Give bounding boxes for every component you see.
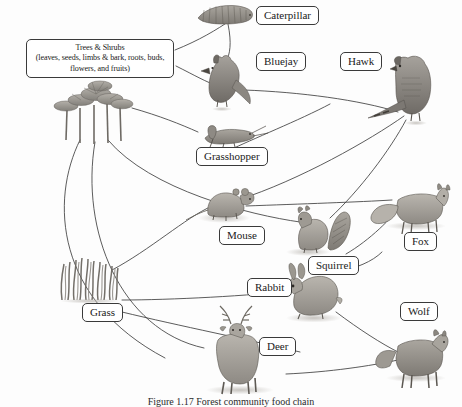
link-grasshopper-bluejay (230, 104, 330, 150)
node-label-rabbit[interactable]: Rabbit (247, 278, 292, 297)
node-label-grass[interactable]: Grass (82, 303, 123, 322)
link-grass-mouse (112, 206, 212, 270)
link-trees-rabbit2 (64, 140, 165, 358)
trees-label-sublabel: (leaves, seeds, limbs & bark, roots, bud… (31, 53, 169, 74)
link-trees-caterpillar (175, 20, 231, 50)
node-label-bluejay[interactable]: Bluejay (256, 52, 306, 71)
link-rabbit-wolf (336, 312, 398, 352)
node-label-caterpillar[interactable]: Caterpillar (256, 6, 319, 25)
link-trees-grasshopper (132, 108, 198, 132)
trees-label-title: Trees & Shrubs (31, 43, 169, 53)
node-label-fox[interactable]: Fox (404, 232, 437, 251)
node-label-deer[interactable]: Deer (259, 337, 296, 356)
link-trees-bluejay (176, 66, 218, 86)
link-mouse-fox (246, 200, 392, 206)
link-squirrel-hawk (330, 120, 406, 218)
link-squirrel-fox (346, 204, 402, 254)
node-label-hawk[interactable]: Hawk (340, 52, 382, 71)
node-label-wolf[interactable]: Wolf (400, 302, 438, 321)
node-label-mouse[interactable]: Mouse (219, 226, 265, 245)
link-caterpillar-bluejay (226, 24, 230, 62)
node-label-grasshopper[interactable]: Grasshopper (196, 147, 268, 166)
node-label-trees-shrubs[interactable]: Trees & Shrubs (leaves, seeds, limbs & b… (26, 39, 174, 78)
figure-caption: Figure 1.17 Forest community food chain (0, 396, 462, 407)
node-label-squirrel[interactable]: Squirrel (308, 256, 359, 275)
link-deer-wolf (286, 360, 398, 374)
food-web-diagram: Trees & Shrubs (leaves, seeds, limbs & b… (0, 0, 462, 407)
